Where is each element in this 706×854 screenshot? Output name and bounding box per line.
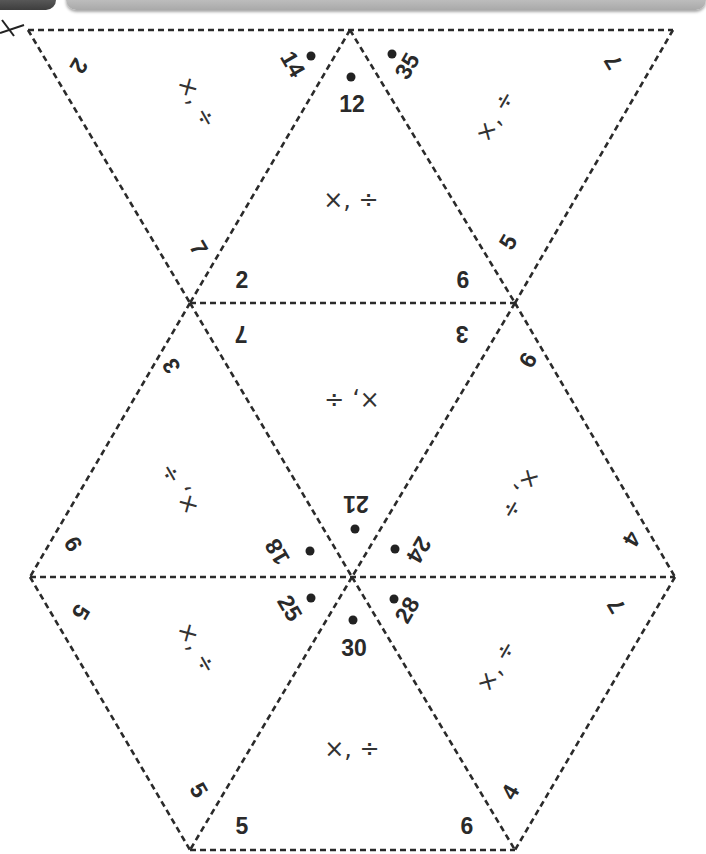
operation-label: ×, ÷	[324, 386, 379, 414]
orientation-dot	[349, 616, 358, 625]
orientation-dot	[307, 52, 316, 61]
edge-number: 7	[235, 321, 248, 347]
edge-number: 24	[401, 532, 436, 567]
edge-number: 5	[184, 778, 213, 802]
edge-number: 4	[617, 527, 646, 551]
operation-label: ×, ÷	[323, 186, 378, 214]
edge-number: 9	[59, 532, 88, 556]
operation-label: ×, ÷	[495, 463, 547, 525]
orientation-dot	[391, 545, 400, 554]
edge-number: 18	[259, 534, 294, 569]
orientation-dot	[307, 594, 316, 603]
cut-lines	[28, 30, 675, 850]
orientation-dot	[351, 525, 360, 534]
edge-number: 9	[513, 348, 542, 372]
edge-number: 3	[456, 321, 469, 347]
edge-number: 2	[236, 267, 249, 293]
edge-number: 4	[496, 780, 525, 804]
orientation-dot	[306, 547, 315, 556]
edge-number: 2	[64, 54, 93, 78]
operation-label: ×, ÷	[153, 458, 205, 520]
operation-label: ×, ÷	[171, 71, 223, 133]
edge-number: 7	[184, 236, 213, 260]
edge-number: 5	[236, 813, 249, 839]
edge-number: 7	[599, 50, 628, 74]
edge-number: 21	[343, 491, 369, 517]
edge-number: 5	[66, 600, 95, 624]
orientation-dot	[388, 50, 397, 59]
orientation-dot	[347, 73, 356, 82]
edge-number: 7	[602, 594, 631, 618]
scissors-icon	[0, 20, 24, 36]
operation-label: ×, ÷	[470, 635, 522, 697]
edge-number: 12	[339, 91, 365, 117]
edge-number: 3	[157, 354, 186, 378]
operation-label: ×, ÷	[171, 617, 223, 679]
edge-number: 25	[272, 590, 307, 625]
edge-number: 6	[457, 267, 470, 293]
edge-number: 6	[461, 813, 474, 839]
edge-number: 5	[494, 230, 523, 254]
operation-label: ×, ÷	[469, 85, 521, 147]
edge-number: 30	[341, 635, 367, 661]
operation-label: ×, ÷	[324, 735, 379, 763]
edge-number: 14	[275, 46, 310, 81]
